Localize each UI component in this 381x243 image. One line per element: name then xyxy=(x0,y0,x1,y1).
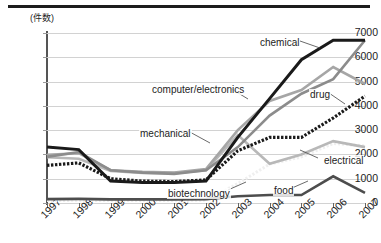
series-label-chemical: chemical xyxy=(259,37,300,48)
series-label-drug: drug xyxy=(309,89,331,100)
series-label-electrical: electrical xyxy=(323,155,364,166)
series-line-mechanical xyxy=(47,67,365,173)
series-label-computer-electronics: computer/electronics xyxy=(151,84,245,95)
leader-line xyxy=(329,93,345,104)
series-line-computer-electronics xyxy=(47,40,365,174)
leader-line xyxy=(300,41,320,48)
series-label-mechanical: mechanical xyxy=(139,128,192,139)
series-label-food: food xyxy=(273,185,294,196)
series-label-biotechnology: biotechnology xyxy=(167,188,231,199)
